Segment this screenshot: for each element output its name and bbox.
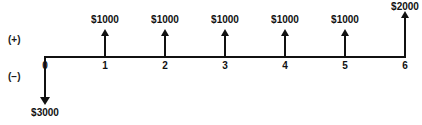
outflow-amount-label: $3000	[31, 107, 59, 118]
period-tick-label: 2	[162, 60, 168, 71]
period-tick-label: 6	[402, 60, 408, 71]
inflow-amount-label: $1000	[271, 14, 299, 25]
negative-sign-label: (−)	[8, 71, 21, 82]
inflow-arrow-shaft	[404, 17, 406, 57]
period-tick-label: 3	[222, 60, 228, 71]
period-tick-label: 5	[342, 60, 348, 71]
cash-flow-diagram: (+) (−) 0123456 $1000$1000$1000$1000$100…	[0, 0, 422, 125]
outflow-arrow-head	[40, 97, 50, 105]
inflow-arrow-shaft	[224, 35, 226, 57]
inflow-amount-label: $1000	[91, 14, 119, 25]
inflow-arrow-shaft	[164, 35, 166, 57]
inflow-amount-label: $2000	[391, 1, 419, 12]
inflow-amount-label: $1000	[211, 14, 239, 25]
inflow-amount-label: $1000	[151, 14, 179, 25]
positive-sign-label: (+)	[8, 34, 21, 45]
outflow-arrow-shaft	[44, 58, 46, 98]
inflow-arrow-shaft	[104, 35, 106, 57]
inflow-amount-label: $1000	[331, 14, 359, 25]
period-tick-label: 1	[102, 60, 108, 71]
period-tick-label: 4	[282, 60, 288, 71]
inflow-arrow-shaft	[284, 35, 286, 57]
inflow-arrow-shaft	[344, 35, 346, 57]
